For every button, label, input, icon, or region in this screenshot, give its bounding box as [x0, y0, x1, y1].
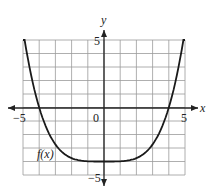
x-axis-arrow-right-icon	[191, 105, 198, 111]
origin-label: 0	[93, 111, 99, 125]
y-axis-label: y	[100, 13, 107, 27]
x-max-tick-label: 5	[181, 111, 187, 125]
curve-label: f(x)	[37, 147, 54, 161]
y-axis-arrow-up-icon	[101, 30, 107, 37]
x-min-tick-label: −5	[13, 111, 26, 125]
y-axis-arrow-down-icon	[101, 179, 107, 186]
x-axis-label: x	[199, 101, 206, 115]
function-graph: y x −5 5 0 5 −5 f(x)	[0, 0, 215, 192]
y-max-tick-label: 5	[94, 34, 100, 48]
y-min-tick-label: −5	[88, 171, 101, 185]
